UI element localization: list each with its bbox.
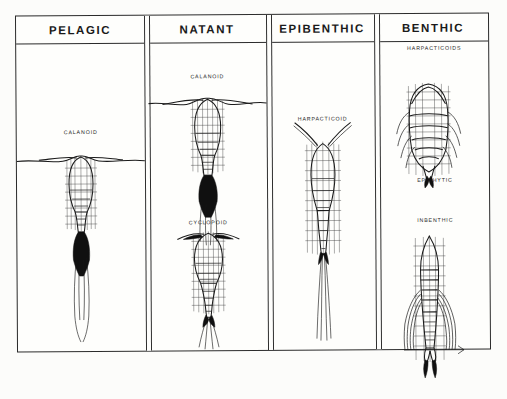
column-header-benthic: BENTHIC [378, 14, 488, 43]
specimen-drawing-natant-cyclopoid [148, 43, 268, 353]
column-header-natant: NATANT [148, 15, 266, 44]
specimen-drawing-pelagic-calanoid [16, 44, 146, 354]
column-header-epibenthic: EPIBENTHIC [270, 14, 374, 43]
column-header-pelagic: PELAGIC [16, 16, 144, 45]
copepod-habitat-figure: PELAGIC NATANT EPIBENTHIC BENTHIC CALANO… [0, 0, 507, 399]
specimen-drawing-benthic-inbenthic [378, 42, 490, 352]
figure-plate: PELAGIC NATANT EPIBENTHIC BENTHIC CALANO… [15, 13, 491, 353]
specimen-drawing-epibenthic-harpacticoid [270, 42, 376, 352]
